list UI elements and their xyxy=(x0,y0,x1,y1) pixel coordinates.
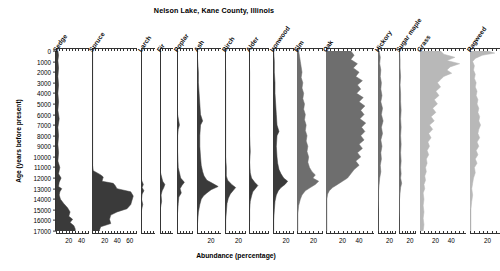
panel-minor-tick xyxy=(381,231,382,234)
x-axis-tick-label: 20 xyxy=(386,237,393,244)
y-axis-tick-label: 15000 xyxy=(33,206,51,213)
panel-minor-tick xyxy=(451,231,452,234)
panel-minor-tick xyxy=(283,231,284,234)
x-axis-tick-label: 20 xyxy=(339,237,346,244)
abundance-curve xyxy=(470,51,500,231)
panel-minor-tick xyxy=(82,231,83,234)
panel-minor-tick xyxy=(459,231,460,234)
panel-minor-tick xyxy=(160,231,161,234)
panel-minor-tick xyxy=(384,231,385,234)
y-axis-tick-label: 16000 xyxy=(33,217,51,224)
y-axis-tick-label: 6000 xyxy=(37,111,51,118)
panel-minor-tick xyxy=(256,231,257,234)
panel-minor-tick xyxy=(402,231,403,234)
panel-minor-tick xyxy=(483,231,484,234)
panel-minor-tick xyxy=(249,231,250,234)
panel-minor-tick xyxy=(474,231,475,234)
panel-tick-row xyxy=(56,231,88,234)
panel-minor-tick xyxy=(390,231,391,234)
panel-minor-tick xyxy=(347,231,348,234)
panel-minor-tick xyxy=(286,231,287,234)
x-axis-tick-label: 20 xyxy=(235,237,242,244)
panel-minor-tick xyxy=(367,231,368,234)
panel-minor-tick xyxy=(127,231,128,234)
y-axis-tick-label: 13000 xyxy=(33,185,51,192)
panel-minor-tick xyxy=(66,231,67,234)
panel-tick-row xyxy=(160,231,173,234)
panel-minor-tick xyxy=(59,231,60,234)
x-axis-tick-label: 20 xyxy=(101,237,108,244)
chart-title: Nelson Lake, Kane County, Illinois xyxy=(0,6,428,15)
x-axis-tick-label: 40 xyxy=(448,237,455,244)
panel-minor-tick xyxy=(102,231,103,234)
panel-minor-tick xyxy=(95,231,96,234)
x-axis-tick-label: 20 xyxy=(310,237,317,244)
panel-minor-tick xyxy=(351,231,352,234)
panel-minor-tick xyxy=(98,231,99,234)
y-axis-title: Age (years before present) xyxy=(15,61,22,221)
panel-minor-tick xyxy=(56,231,57,234)
panel-minor-tick xyxy=(168,231,169,234)
panel-minor-tick xyxy=(343,231,344,234)
abundance-curve xyxy=(56,51,88,231)
panel-tick-row xyxy=(197,231,221,234)
panel-minor-tick xyxy=(424,231,425,234)
panel-minor-tick xyxy=(262,231,263,234)
y-axis-tick-label: 9000 xyxy=(37,143,51,150)
y-axis-tick-label: 10000 xyxy=(33,153,51,160)
abundance-curve xyxy=(141,51,155,231)
panel-minor-tick xyxy=(111,231,112,234)
panel-tick-row xyxy=(378,231,395,234)
taxon-panel-poplar xyxy=(177,51,193,231)
y-axis-tick-label: 14000 xyxy=(33,196,51,203)
panel-minor-tick xyxy=(150,231,151,234)
panel-minor-tick xyxy=(144,231,145,234)
panel-minor-tick xyxy=(123,231,124,234)
panel-minor-tick xyxy=(265,231,266,234)
plot-area xyxy=(56,51,416,231)
x-axis-tick-label: 40 xyxy=(78,237,85,244)
x-axis-tick-label: 20 xyxy=(208,237,215,244)
panel-minor-tick xyxy=(259,231,260,234)
panel-minor-tick xyxy=(428,231,429,234)
y-axis-tick-label: 8000 xyxy=(37,132,51,139)
x-axis-tick-label: 20 xyxy=(432,237,439,244)
panel-tick-row xyxy=(470,231,500,234)
panel-minor-tick xyxy=(183,231,184,234)
panel-minor-tick xyxy=(276,231,277,234)
panel-minor-tick xyxy=(443,231,444,234)
panel-minor-tick xyxy=(415,231,416,234)
panel-minor-tick xyxy=(305,231,306,234)
taxon-panel-grass xyxy=(420,51,466,231)
panel-minor-tick xyxy=(232,231,233,234)
panel-minor-tick xyxy=(413,231,414,234)
panel-minor-tick xyxy=(470,231,471,234)
taxon-panel-ragweed xyxy=(470,51,500,231)
panel-minor-tick xyxy=(177,231,178,234)
panel-minor-tick xyxy=(211,231,212,234)
panel-tick-row xyxy=(177,231,193,234)
y-axis-tick-label: 17000 xyxy=(33,228,51,235)
panel-minor-tick xyxy=(372,231,373,234)
panel-tick-row xyxy=(326,231,374,234)
y-axis-tick-label: 12000 xyxy=(33,175,51,182)
abundance-curve xyxy=(249,51,268,231)
panel-minor-tick xyxy=(153,231,154,234)
panel-minor-tick xyxy=(273,231,274,234)
panel-minor-tick xyxy=(180,231,181,234)
panel-minor-tick xyxy=(201,231,202,234)
panel-minor-tick xyxy=(114,231,115,234)
panel-minor-tick xyxy=(229,231,230,234)
panel-minor-tick xyxy=(75,231,76,234)
y-axis-tick-label: 11000 xyxy=(34,164,51,171)
panel-minor-tick xyxy=(239,231,240,234)
panel-minor-tick xyxy=(492,231,493,234)
panel-minor-tick xyxy=(208,231,209,234)
panel-minor-tick xyxy=(189,231,190,234)
panel-tick-row xyxy=(297,231,322,234)
panel-tick-row xyxy=(141,231,155,234)
abundance-curve xyxy=(225,51,245,231)
taxon-panel-oak xyxy=(326,51,374,231)
x-axis-tick-label: 60 xyxy=(126,237,133,244)
